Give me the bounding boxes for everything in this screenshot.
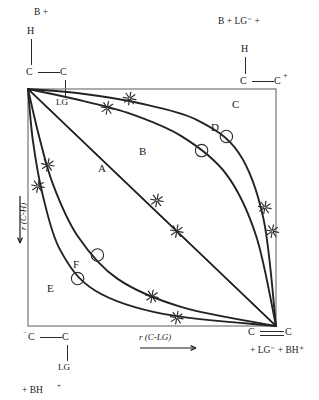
curves-layer <box>28 89 276 326</box>
curve-B <box>28 89 276 326</box>
plot-area <box>0 0 319 400</box>
axis-arrows <box>18 196 196 350</box>
x-axis-arrow <box>140 346 196 351</box>
star-marker-B-0 <box>151 194 164 207</box>
circle-marker-E-2 <box>71 272 83 284</box>
circle-marker-C-2 <box>220 130 232 142</box>
diagram-root: B + H C C LG B + LG⁻ + H C C + ⁻ C C LG … <box>0 0 319 400</box>
y-axis-arrow <box>18 196 23 243</box>
